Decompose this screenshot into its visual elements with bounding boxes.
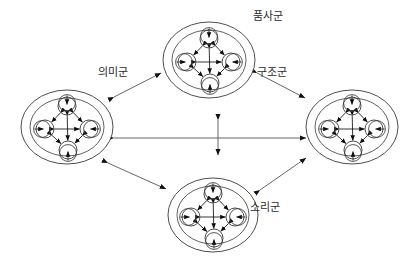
cluster-node-left-bottom[interactable]: [59, 141, 77, 161]
cluster-node-top-top[interactable]: [200, 28, 218, 48]
internal-link-left-top-bottom: [67, 115, 68, 140]
node-circle-top-right[interactable]: [222, 53, 240, 71]
node-circle-right-bottom[interactable]: [344, 141, 362, 159]
cluster-node-bottom-bottom[interactable]: [205, 229, 223, 249]
cluster-node-top-bottom[interactable]: [201, 74, 219, 94]
cluster-node-top-left[interactable]: [176, 53, 196, 71]
connection-line-bottom-right: [260, 158, 306, 190]
cluster-node-right-right[interactable]: [365, 120, 385, 138]
cluster-bottom[interactable]: [168, 178, 258, 252]
network-diagram-svg: 품사군의미군구조군소리군: [0, 0, 418, 263]
node-circle-left-bottom[interactable]: [59, 141, 77, 159]
cluster-node-left-top[interactable]: [58, 95, 76, 115]
cluster-label-bottom: 소리군: [250, 201, 280, 214]
node-circle-bottom-top[interactable]: [204, 185, 222, 203]
diagram-canvas: 품사군의미군구조군소리군: [0, 0, 418, 263]
cluster-node-top-right[interactable]: [222, 53, 242, 71]
node-circle-right-top[interactable]: [343, 97, 361, 115]
node-circle-top-left[interactable]: [178, 53, 196, 71]
node-circle-left-right[interactable]: [80, 120, 98, 138]
connection-left-bottom: [108, 163, 166, 189]
cluster-node-left-left[interactable]: [34, 120, 54, 138]
cluster-label-left: 의미군: [98, 66, 128, 79]
node-circle-top-top[interactable]: [200, 30, 218, 48]
cluster-right[interactable]: [306, 90, 398, 164]
cluster-label-top: 품사군: [253, 10, 283, 23]
connection-line-left-bottom: [108, 163, 166, 189]
connection-bottom-right: [260, 158, 306, 190]
node-circle-bottom-bottom[interactable]: [205, 229, 223, 247]
node-circle-bottom-left[interactable]: [182, 208, 200, 226]
cluster-top[interactable]: [163, 22, 255, 98]
cluster-node-left-right[interactable]: [80, 120, 100, 138]
cluster-node-right-left[interactable]: [319, 120, 339, 138]
cluster-node-bottom-top[interactable]: [204, 183, 222, 203]
cluster-node-bottom-left[interactable]: [180, 208, 200, 226]
cluster-node-bottom-right[interactable]: [226, 208, 246, 226]
node-circle-left-left[interactable]: [36, 120, 54, 138]
internal-link-top-top-bottom: [209, 48, 210, 73]
cluster-left[interactable]: [21, 90, 113, 164]
node-circle-top-bottom[interactable]: [201, 74, 219, 92]
cluster-group-layer: [21, 22, 398, 252]
node-circle-left-top[interactable]: [58, 97, 76, 115]
internal-link-right-top-bottom: [352, 115, 353, 140]
cluster-node-right-top[interactable]: [343, 95, 361, 115]
cluster-node-right-bottom[interactable]: [344, 141, 362, 161]
node-circle-right-left[interactable]: [321, 120, 339, 138]
node-circle-bottom-right[interactable]: [226, 208, 244, 226]
internal-link-bottom-top-bottom: [213, 203, 214, 228]
node-circle-right-right[interactable]: [365, 120, 383, 138]
cluster-label-right: 구조군: [257, 66, 287, 79]
